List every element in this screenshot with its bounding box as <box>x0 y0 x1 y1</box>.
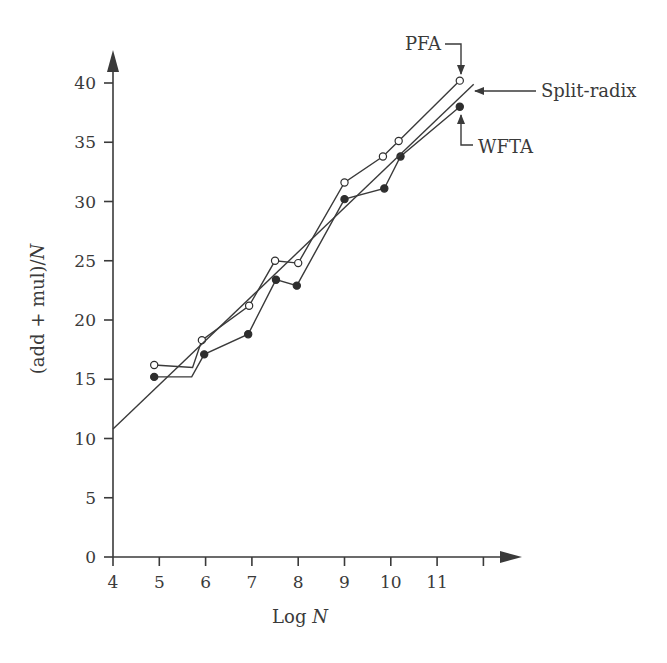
y-tick-label: 0 <box>85 547 96 567</box>
y-ticks: 0510152025303540 <box>74 73 113 567</box>
annotation-wfta: WFTA <box>461 115 534 157</box>
x-tick-label: 9 <box>339 572 350 592</box>
filled-circle-marker-icon <box>272 276 279 283</box>
annotation-wfta-label: WFTA <box>478 136 534 157</box>
series-wfta <box>151 103 464 380</box>
y-tick-label: 20 <box>74 310 96 330</box>
x-tick-label: 11 <box>426 572 448 592</box>
y-axis: 0510152025303540 <box>74 50 119 567</box>
arrow-up-icon <box>461 115 473 145</box>
filled-circle-marker-icon <box>201 351 208 358</box>
series-split-radix <box>113 84 474 429</box>
open-circle-marker-icon <box>379 153 386 160</box>
series-line <box>154 107 460 377</box>
x-axis: 4567891011 <box>108 551 522 592</box>
open-circle-marker-icon <box>271 257 278 264</box>
series-line <box>154 81 460 368</box>
annotation-pfa: PFA <box>405 33 461 74</box>
filled-circle-marker-icon <box>381 185 388 192</box>
filled-circle-marker-icon <box>293 282 300 289</box>
annotation-split-radix-label: Split-radix <box>541 80 636 101</box>
series-line <box>113 84 474 429</box>
filled-circle-marker-icon <box>151 373 158 380</box>
y-tick-label: 15 <box>74 369 96 389</box>
chart: 0510152025303540 4567891011 Log N (add +… <box>0 0 667 663</box>
x-tick-label: 7 <box>246 572 257 592</box>
series-layer <box>113 77 474 429</box>
y-tick-label: 25 <box>74 251 96 271</box>
x-axis-title-n: N <box>311 606 329 627</box>
filled-circle-marker-icon <box>341 196 348 203</box>
y-tick-label: 10 <box>74 429 96 449</box>
y-axis-title-n: N <box>27 242 48 260</box>
annotation-pfa-label: PFA <box>405 33 442 54</box>
open-circle-marker-icon <box>295 260 302 267</box>
y-axis-title: (add + mul)/N <box>27 242 48 374</box>
open-circle-marker-icon <box>456 77 463 84</box>
open-circle-marker-icon <box>341 179 348 186</box>
filled-circle-marker-icon <box>245 331 252 338</box>
annotation-split-radix: Split-radix <box>475 80 636 101</box>
open-circle-marker-icon <box>246 302 253 309</box>
y-tick-label: 30 <box>74 192 96 212</box>
x-tick-label: 5 <box>154 572 165 592</box>
open-circle-marker-icon <box>151 361 158 368</box>
filled-circle-marker-icon <box>456 103 463 110</box>
x-tick-label: 4 <box>108 572 119 592</box>
y-tick-label: 35 <box>74 132 96 152</box>
x-tick-label: 6 <box>200 572 211 592</box>
x-axis-title: Log N <box>272 606 329 627</box>
y-tick-label: 5 <box>85 488 96 508</box>
x-axis-arrow-icon <box>500 551 522 563</box>
y-tick-label: 40 <box>74 73 96 93</box>
open-circle-marker-icon <box>395 137 402 144</box>
open-circle-marker-icon <box>198 337 205 344</box>
x-tick-label: 10 <box>380 572 402 592</box>
x-ticks: 4567891011 <box>108 557 484 592</box>
series-pfa <box>151 77 464 369</box>
arrow-down-icon <box>445 44 461 74</box>
x-tick-label: 8 <box>293 572 304 592</box>
y-axis-arrow-icon <box>107 50 119 72</box>
